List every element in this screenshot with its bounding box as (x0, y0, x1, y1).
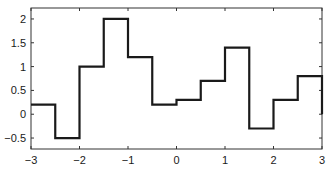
step-chart: −3−2−10123 −0.500.511.52 (0, 0, 332, 174)
x-tick-label: −1 (122, 154, 135, 166)
y-tick-label: 2 (20, 13, 26, 25)
plot-area (31, 8, 322, 149)
x-tick-label: 2 (270, 154, 276, 166)
y-tick-label: 1.5 (11, 37, 26, 49)
x-tick-label: −2 (73, 154, 86, 166)
y-tick-label: −0.5 (4, 132, 26, 144)
y-tick-label: 0.5 (11, 84, 26, 96)
x-tick-label: 0 (173, 154, 179, 166)
x-tick-label: 3 (319, 154, 325, 166)
x-tick-label: −3 (25, 154, 38, 166)
y-tick-label: 0 (20, 108, 26, 120)
y-tick-label: 1 (20, 61, 26, 73)
x-tick-label: 1 (222, 154, 228, 166)
